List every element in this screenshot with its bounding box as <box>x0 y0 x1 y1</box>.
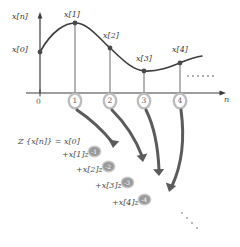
sample-label-2: x[2] <box>103 31 119 40</box>
y-axis-label: x[n] <box>12 12 28 21</box>
tick-label-2: 2 <box>108 96 113 105</box>
equation-term-4-coef: +x[4] <box>112 198 135 207</box>
arrow-index-3 <box>146 110 159 170</box>
equation-term-1-coef: +x[1] <box>62 150 85 159</box>
tick-label-4: 4 <box>178 96 183 105</box>
arrow-index-4 <box>172 110 183 186</box>
equation-term-2-exponent: -2 <box>103 162 114 171</box>
x-axis-label: n <box>224 95 229 104</box>
equation-line-4: +x[4]z-4 <box>112 198 150 207</box>
axis-tick-markers <box>69 94 186 109</box>
equation-line-3: +x[3]z-3 <box>95 181 133 190</box>
equation-line-1: +x[1]z-1 <box>62 150 100 159</box>
equation-line-0: Z {x[n]} = x[0] <box>18 137 80 146</box>
sample-label-1: x[1] <box>64 10 80 19</box>
z-transform-figure <box>0 0 240 247</box>
equation-line-2: +x[2]z-2 <box>76 165 114 174</box>
equation-term-3-coef: +x[3] <box>95 181 118 190</box>
axis-ellipsis-dots <box>187 75 214 77</box>
equation-term-2-coef: +x[2] <box>76 165 99 174</box>
equation-ellipsis-dots <box>181 212 198 229</box>
equation-term-0-coef: x[0] <box>64 137 80 146</box>
origin-label: 0 <box>36 97 41 106</box>
equation-term-3-exponent: -3 <box>122 178 133 187</box>
sample-label-4: x[4] <box>172 45 188 54</box>
equation-term-4-exponent: -4 <box>139 195 150 204</box>
arrow-index-2 <box>112 110 142 156</box>
axes <box>26 12 226 97</box>
tick-label-1: 1 <box>73 96 78 105</box>
sample-label-3: x[3] <box>136 54 152 63</box>
equation-term-1-exponent: -1 <box>89 147 100 156</box>
tick-label-3: 3 <box>142 96 147 105</box>
arrow-index-1 <box>77 110 113 143</box>
z-transform-operator: Z {x[n]} = <box>18 137 61 146</box>
sample-label-0: x[0] <box>12 45 28 54</box>
